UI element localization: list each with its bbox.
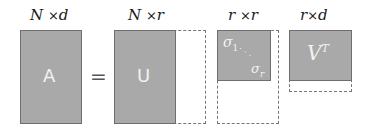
matrix-a: A — [20, 30, 82, 124]
sigma-symbol: σ — [223, 34, 233, 50]
dim-cols: d — [59, 6, 69, 24]
times-symbol: × — [307, 8, 318, 23]
dim-cols: r — [251, 6, 258, 24]
dim-cols: d — [318, 6, 328, 24]
matrix-vt: VT — [289, 30, 352, 81]
matrix-a-label: A — [43, 65, 55, 86]
sigma-sub: r — [260, 69, 264, 79]
matrix-u: U — [114, 30, 176, 124]
dim-label-u: N ×r — [128, 6, 164, 24]
matrix-u-label: U — [137, 65, 150, 86]
matrix-vt-label: VT — [307, 41, 329, 65]
dim-label-sigma: r ×r — [228, 6, 258, 24]
dim-cols: r — [157, 6, 164, 24]
equals-sign: = — [90, 64, 107, 88]
matrix-sigma: σ1 · · · σr — [217, 30, 271, 81]
sigma-1: σ1 — [223, 34, 238, 53]
sigma-symbol: σ — [251, 61, 260, 76]
dim-label-a: N ×d — [30, 6, 68, 24]
v-symbol: V — [307, 41, 321, 65]
transpose-sup: T — [321, 42, 328, 55]
dim-rows: r — [228, 6, 235, 24]
dim-rows: N — [30, 6, 43, 24]
sigma-r: σr — [251, 61, 264, 79]
times-symbol: × — [48, 8, 59, 23]
dim-rows: N — [128, 6, 141, 24]
times-symbol: × — [240, 8, 251, 23]
dim-label-vt: r×d — [300, 6, 328, 24]
times-symbol: × — [146, 8, 157, 23]
diagonal-dots: · · · — [236, 44, 253, 60]
